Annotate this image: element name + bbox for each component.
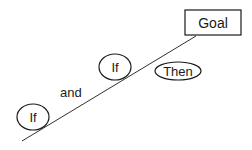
then-label: Then	[163, 64, 193, 79]
if-node-lower: If	[17, 104, 49, 130]
progression-line	[22, 36, 196, 141]
if-node-upper: If	[99, 54, 131, 80]
if-lower-label: If	[29, 110, 37, 125]
and-connector-label: and	[60, 85, 82, 100]
if-upper-label: If	[111, 60, 119, 75]
goal-label: Goal	[198, 15, 228, 31]
if-then-goal-diagram: Goal If Then and If	[0, 0, 252, 150]
then-node: Then	[155, 62, 201, 80]
goal-box: Goal	[185, 10, 241, 35]
